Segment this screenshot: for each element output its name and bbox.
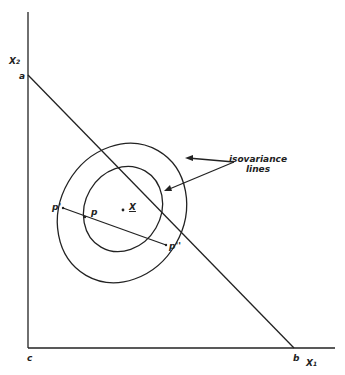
line-p-prime-to-p-double-prime [63,208,166,245]
point-b-label: b [293,354,299,363]
point-a-label: a [19,72,25,81]
point-p-label: p [91,208,97,217]
point-p-double-prime-label: p'' [169,242,181,251]
arrowhead-outer-icon [185,155,193,161]
point-p-double-prime-dot [165,244,167,246]
mean-x-label: X [129,203,136,212]
mean-dot [122,209,125,212]
outer-isovariance-ellipse [32,120,211,307]
isovariance-annotation: isovariance lines [223,155,293,174]
point-p-prime-label: p' [52,203,61,212]
point-p-dot [84,216,86,218]
diagram: X2 a c b X1 p' p p'' X isovariance lines [0,0,345,375]
budget-line-ab [28,75,294,348]
point-c-label: c [27,354,32,363]
x-axis-label: X1 [306,359,317,368]
y-axis-label: X2 [9,57,20,66]
arrowhead-inner-icon [164,185,172,191]
diagram-graphics [0,0,345,375]
point-p-prime-dot [62,207,64,209]
